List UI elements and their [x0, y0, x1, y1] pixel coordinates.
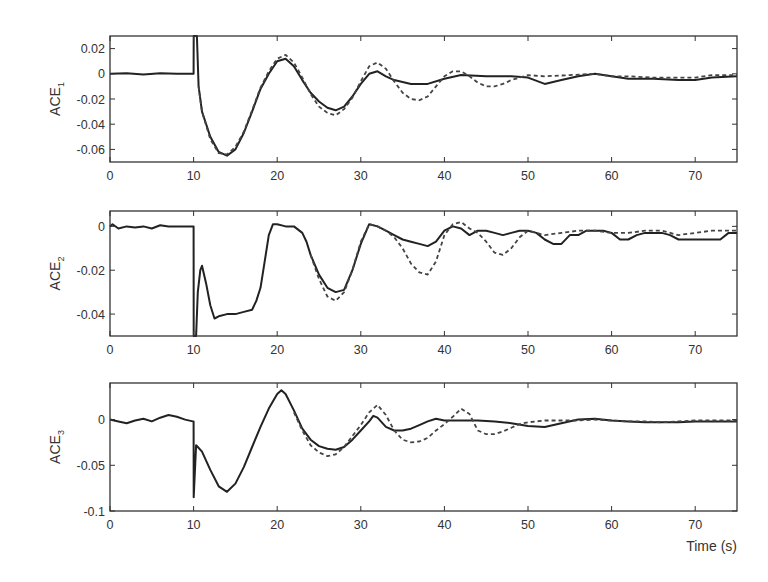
axes-box [110, 36, 737, 162]
x-tick-label: 30 [354, 518, 368, 532]
y-tick-label: -0.02 [77, 93, 106, 107]
x-tick-label: 70 [688, 169, 702, 183]
x-tick-label: 20 [270, 343, 284, 357]
y-axis-label: ACE2 [47, 257, 66, 291]
axes-box [110, 383, 737, 511]
x-tick-label: 20 [270, 169, 284, 183]
x-tick-label: 0 [107, 169, 114, 183]
x-tick-label: 30 [354, 169, 368, 183]
y-axis-label: ACE1 [47, 82, 66, 116]
x-tick-label: 50 [521, 518, 535, 532]
y-axis-label: ACE3 [47, 430, 66, 464]
series-dashed [311, 222, 737, 301]
x-tick-label: 40 [437, 169, 451, 183]
x-tick-label: 40 [437, 518, 451, 532]
y-tick-label: 0 [98, 67, 105, 81]
x-tick-label: 20 [270, 518, 284, 532]
y-tick-label: -0.1 [83, 505, 105, 519]
x-tick-label: 30 [354, 343, 368, 357]
x-tick-label: 0 [107, 518, 114, 532]
y-tick-label: -0.05 [77, 459, 106, 473]
y-tick-label: -0.04 [77, 308, 106, 322]
x-tick-label: 10 [187, 343, 201, 357]
y-tick-label: -0.04 [77, 118, 106, 132]
y-tick-label: 0 [98, 413, 105, 427]
x-tick-label: 70 [688, 518, 702, 532]
plot-ace2: 0102030405060700-0.02-0.04ACE2 [47, 211, 737, 357]
y-tick-label: -0.02 [77, 264, 106, 278]
y-tick-label: -0.06 [77, 143, 106, 157]
y-tick-label: 0.02 [81, 42, 105, 56]
x-tick-label: 60 [605, 518, 619, 532]
x-tick-label: 50 [521, 169, 535, 183]
x-tick-label: 60 [605, 169, 619, 183]
series-solid [110, 224, 737, 336]
x-tick-label: 50 [521, 343, 535, 357]
x-tick-label: 10 [187, 518, 201, 532]
figure: 0102030405060700.020-0.02-0.04-0.06ACE1 … [0, 0, 768, 582]
plot-ace3: 0102030405060700-0.05-0.1ACE3 [47, 383, 737, 532]
y-tick-label: 0 [98, 220, 105, 234]
series-solid [110, 36, 737, 156]
x-tick-label: 0 [107, 343, 114, 357]
x-tick-label: 60 [605, 343, 619, 357]
series-dashed [199, 55, 737, 154]
x-axis-label: Time (s) [686, 538, 737, 554]
x-tick-label: 40 [437, 343, 451, 357]
plot-ace1: 0102030405060700.020-0.02-0.04-0.06ACE1 [47, 36, 737, 183]
x-tick-label: 70 [688, 343, 702, 357]
series-solid [110, 390, 737, 497]
x-tick-label: 10 [187, 169, 201, 183]
